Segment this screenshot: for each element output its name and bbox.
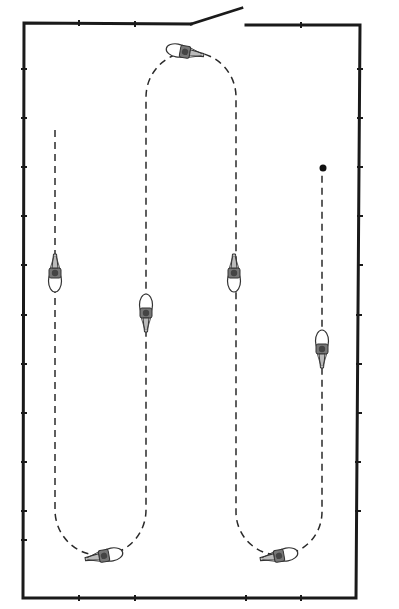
arena-diagram (0, 0, 399, 609)
horse-right-up (316, 330, 329, 368)
arena-walls (23, 8, 360, 598)
wall-top-left-left-bottom-right (23, 23, 360, 598)
horse-top-turn (165, 42, 205, 61)
horse-col3-down (228, 254, 241, 292)
horse-col2-up (140, 294, 153, 332)
door-gate (191, 8, 242, 24)
serpentine-path (55, 52, 322, 555)
horse-bottom-left-turn (84, 546, 124, 565)
arena-markers (21, 20, 363, 601)
horse-bottom-right-turn (259, 546, 299, 565)
end-marker-dot (320, 165, 327, 172)
horse-left-down (49, 254, 62, 292)
